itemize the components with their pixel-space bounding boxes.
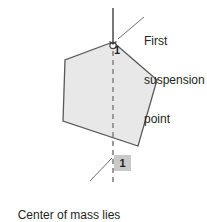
callout-com-line-1: Center of mass lies	[6, 209, 132, 222]
callout-first-suspension-point: First suspension point	[144, 9, 205, 139]
callout-suspension-line-3: point	[144, 113, 205, 126]
suspension-index-label-top: 1	[114, 44, 120, 57]
callout-suspension-line-2: suspension	[144, 74, 205, 87]
callout-center-of-mass: Center of mass lies along this line	[6, 183, 132, 222]
callout-suspension-line-1: First	[144, 35, 205, 48]
suspension-index-badge-label: 1	[119, 157, 125, 169]
suspension-index-badge: 1	[114, 155, 131, 171]
